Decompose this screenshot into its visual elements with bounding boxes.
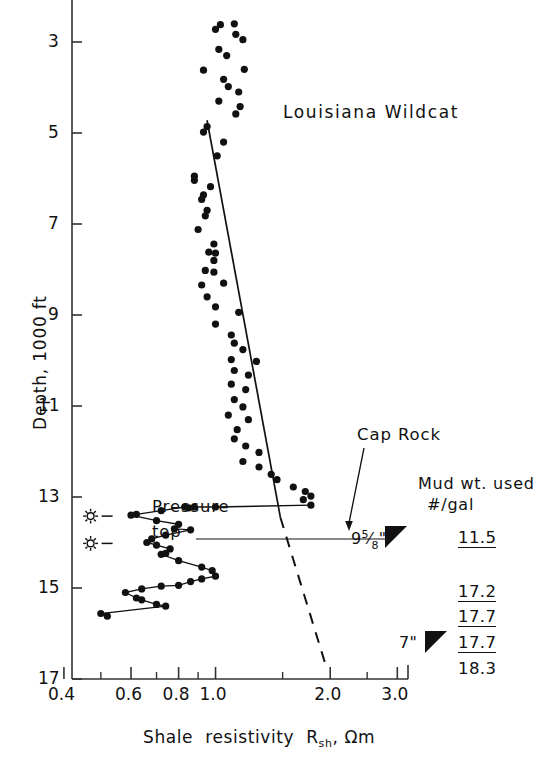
shale-resistivity-scatter-point-2 [212, 26, 219, 33]
shale-resistivity-scatter-point-1 [231, 20, 238, 27]
mud-weight-value-3: 17.7 [458, 633, 496, 653]
shale-resistivity-scatter-point-6 [223, 52, 230, 59]
casing-shoe-icon-7 [425, 631, 447, 653]
pressure-zone-profile-point-11 [187, 526, 194, 533]
shale-resistivity-scatter-point-36 [212, 303, 219, 310]
normal-compaction-trend [207, 120, 280, 517]
pressure-zone-profile-point-25 [175, 582, 182, 589]
shale-resistivity-scatter-point-20 [191, 177, 198, 184]
pressure-zone-profile-point-30 [138, 596, 145, 603]
shale-resistivity-scatter-point-33 [198, 281, 205, 288]
casing-shoe-icon-9 [385, 526, 407, 548]
shale-resistivity-scatter-point-52 [234, 426, 241, 433]
mud-weight-value-2: 17.7 [458, 607, 496, 627]
kick-symbol-1-ray-5 [85, 511, 87, 513]
mud-weight-value-0: 11.5 [458, 528, 496, 548]
x-tick-label-0.4: 0.4 [48, 684, 75, 704]
pressure-zone-profile-point-0 [307, 502, 314, 509]
shale-resistivity-scatter-point-12 [215, 98, 222, 105]
shale-resistivity-scatter-point-49 [239, 403, 246, 410]
shale-resistivity-scatter-point-53 [231, 435, 238, 442]
pressure-zone-profile-point-22 [212, 573, 219, 580]
casing-size-label-9: 95⁄8" [351, 528, 386, 552]
shale-resistivity-scatter-point-28 [205, 249, 212, 256]
shale-resistivity-scatter-point-4 [239, 36, 246, 43]
x-tick-label-0.8: 0.8 [163, 684, 190, 704]
y-tick-label-7: 7 [48, 213, 59, 233]
shale-resistivity-scatter-point-35 [204, 293, 211, 300]
x-tick-label-0.6: 0.6 [115, 684, 142, 704]
pressure-zone-profile-point-20 [198, 564, 205, 571]
shale-resistivity-scatter-point-8 [241, 66, 248, 73]
x-tick-label-2: 2.0 [314, 684, 341, 704]
y-tick-label-13: 13 [38, 486, 60, 506]
kick-symbol-1-ray-3 [85, 519, 87, 521]
pressure-zone-profile-point-28 [122, 589, 129, 596]
kick-symbol-1 [83, 509, 112, 524]
y-tick-label-9: 9 [48, 304, 59, 324]
shale-resistivity-scatter-point-23 [198, 196, 205, 203]
cap-rock-leader [349, 448, 364, 523]
x-tick-label-1: 1.0 [200, 684, 227, 704]
shale-resistivity-scatter-point-47 [242, 386, 249, 393]
shale-resistivity-scatter-point-54 [242, 442, 249, 449]
kick-symbol-2-ray-7 [94, 538, 96, 540]
pressure-zone-profile-point-19 [175, 557, 182, 564]
kick-symbol-2-core [87, 540, 94, 547]
pressure-top-label-line1: Pressure [152, 497, 230, 516]
shale-resistivity-scatter-point-16 [200, 129, 207, 136]
shale-resistivity-scatter-point-27 [210, 240, 217, 247]
mud-weight-value-1: 17.2 [458, 582, 496, 602]
mud-table-header-line2: #/gal [427, 495, 474, 514]
shale-resistivity-scatter-point-38 [212, 321, 219, 328]
pressure-zone-profile-point-34 [104, 613, 111, 620]
kick-symbol-1-ray-7 [94, 511, 96, 513]
pressure-zone-profile-point-26 [158, 583, 165, 590]
shale-resistivity-scatter-point-26 [195, 226, 202, 233]
kick-symbol-2 [83, 536, 112, 551]
kick-symbol-2-ray-3 [85, 547, 87, 549]
shale-resistivity-scatter-point-44 [231, 367, 238, 374]
y-tick-label-5: 5 [48, 122, 59, 142]
shale-resistivity-scatter-point-21 [207, 183, 214, 190]
shale-resistivity-scatter-point-29 [212, 250, 219, 257]
pressure-zone-profile-point-7 [127, 512, 134, 519]
shale-resistivity-scatter-point-13 [237, 103, 244, 110]
pressure-zone-profile-point-24 [187, 578, 194, 585]
shale-resistivity-scatter-point-25 [202, 212, 209, 219]
pressure-top-label-line2: top [152, 522, 182, 541]
cap-rock-label: Cap Rock [357, 425, 441, 444]
shale-resistivity-scatter-point-30 [210, 257, 217, 264]
shale-resistivity-scatter-point-9 [220, 76, 227, 83]
shale-resistivity-scatter-point-31 [202, 267, 209, 274]
shale-resistivity-scatter-point-60 [290, 483, 297, 490]
shale-resistivity-scatter-point-50 [225, 412, 232, 419]
extrapolated-trend [280, 517, 326, 666]
shale-resistivity-scatter-point-5 [215, 46, 222, 53]
figure-container: Depth, 1000 ft Shale resistivity Rsh, Ωm… [0, 0, 540, 773]
y-tick-label-3: 3 [48, 31, 59, 51]
shale-resistivity-scatter-point-62 [307, 493, 314, 500]
y-tick-label-11: 11 [38, 395, 60, 415]
shale-resistivity-scatter-point-39 [228, 331, 235, 338]
annotation-leaders [196, 448, 389, 539]
shale-resistivity-scatter-point-40 [231, 340, 238, 347]
shale-resistivity-scatter-point-63 [300, 496, 307, 503]
pressure-zone-profile-point-14 [143, 539, 150, 546]
kick-symbol-1-ray-1 [94, 519, 96, 521]
pressure-zone-profile-point-23 [198, 575, 205, 582]
shale-resistivity-scatter-point-61 [302, 488, 309, 495]
pressure-zone-profile-polyline [101, 505, 311, 616]
shale-resistivity-scatter-point-34 [220, 280, 227, 287]
shale-resistivity-scatter-point-45 [245, 372, 252, 379]
kick-symbol-1-core [87, 513, 94, 520]
shale-resistivity-scatter-point-32 [210, 269, 217, 276]
shale-resistivity-scatter-point-55 [255, 449, 262, 456]
pressure-zone-profile-point-33 [97, 610, 104, 617]
shale-resistivity-scatter-point-46 [228, 381, 235, 388]
x-tick-label-3: 3.0 [381, 684, 408, 704]
casing-size-label-7: 7" [399, 633, 417, 652]
shale-resistivity-scatter-point-51 [245, 416, 252, 423]
mud-table-header-line1: Mud wt. used [418, 474, 535, 493]
x-axis-title: Shale resistivity Rsh, Ωm [143, 727, 375, 750]
